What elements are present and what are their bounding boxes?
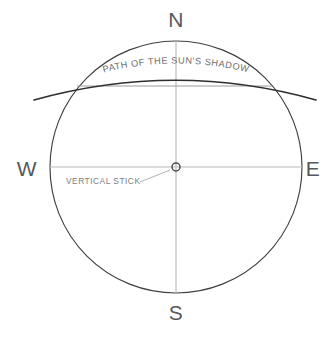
sun-shadow-path-arc <box>34 80 316 100</box>
compass-label-south: S <box>169 301 184 324</box>
vertical-stick-leader-line <box>140 170 170 182</box>
compass-label-north: N <box>168 8 184 31</box>
compass-label-east: E <box>306 157 321 180</box>
sundial-diagram: PATH OF THE SUN'S SHADOW N S W E VERTICA… <box>0 0 330 339</box>
compass-label-west: W <box>17 157 37 180</box>
sundial-canvas: PATH OF THE SUN'S SHADOW N S W E VERTICA… <box>0 0 330 339</box>
vertical-stick-label: VERTICAL STICK <box>66 176 140 186</box>
